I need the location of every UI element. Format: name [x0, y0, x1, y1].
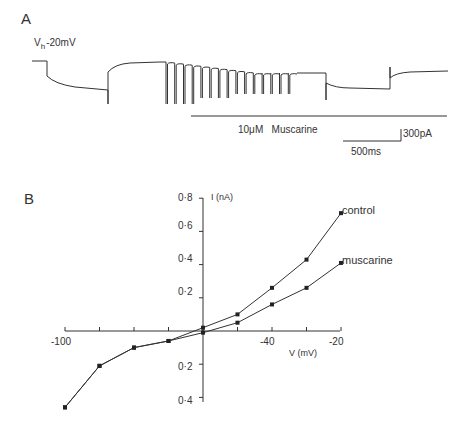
y-tick-label-0-6: 0·6 [178, 220, 192, 231]
x-tick-label-neg20: -20 [329, 336, 343, 347]
y-tick-label-neg-0-4: 0·4 [178, 395, 192, 406]
y-axis-label: I (nA) [211, 192, 233, 202]
current-trace [32, 61, 448, 104]
y-tick-label-0-8: 0·8 [178, 192, 192, 203]
panel-b-label: B [24, 190, 34, 207]
iv-axes [65, 198, 340, 402]
y-tick-label-neg-0-2: 0·2 [178, 361, 192, 372]
current-scale-label: 300pA [403, 128, 432, 139]
legend-control: control [342, 204, 375, 216]
time-scale-label: 500ms [351, 146, 381, 157]
x-tick-label-neg100: -100 [51, 336, 71, 347]
x-axis-label: V (mV) [289, 348, 317, 358]
y-ticks [199, 198, 203, 397]
legend-muscarine: muscarine [342, 254, 393, 266]
x-tick-label-neg40: -40 [260, 336, 274, 347]
y-tick-label-0-2: 0·2 [178, 286, 192, 297]
muscarine-label: 10μM Muscarine [238, 124, 318, 135]
y-tick-label-0-4: 0·4 [178, 253, 192, 264]
figure-svg [0, 0, 464, 421]
